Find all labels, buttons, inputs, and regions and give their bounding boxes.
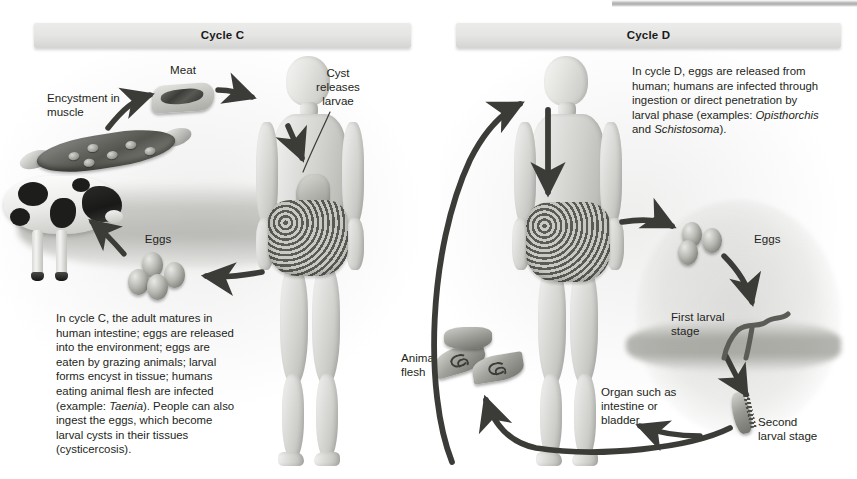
caption-d-tail: ). <box>719 123 726 135</box>
egg <box>147 274 168 300</box>
caption-d-species2: Schistosoma <box>654 123 719 135</box>
foot-left <box>536 452 562 466</box>
cow-hoof <box>31 272 44 281</box>
head <box>544 56 588 106</box>
flesh-slab <box>444 327 492 349</box>
shin-left <box>282 374 304 460</box>
egg-cluster-cycle-d <box>676 222 738 266</box>
caption-d-species: Opisthorchis <box>755 109 818 121</box>
caption-cycle-d: In cycle D, eggs are released from human… <box>632 64 824 137</box>
foot-left <box>278 452 304 466</box>
cycle-d-title-label: Cycle D <box>627 29 671 41</box>
caption-c-lead: In cycle C, the adult matures in human i… <box>56 312 234 412</box>
leg-right <box>570 264 598 386</box>
label-first-larval-stage: First larval stage <box>671 310 755 338</box>
cow-illustration <box>2 170 126 292</box>
cow-hoof <box>55 272 68 281</box>
label-second-larval-stage: Second larval stage <box>758 415 840 443</box>
intestine-organ <box>526 202 610 282</box>
egg <box>678 240 698 265</box>
label-eggs-cycle-d: Eggs <box>754 232 814 246</box>
panel-cycle-c: Cycle C <box>0 0 440 479</box>
caption-c-species: Taenia <box>109 400 143 412</box>
leg-left <box>280 264 308 386</box>
label-organ-intestine-bladder: Organ such as intestine or bladder <box>601 385 697 428</box>
cycle-c-title-banner: Cycle C <box>34 22 411 48</box>
caption-d-mid: and <box>632 123 654 135</box>
cycle-d-title-banner: Cycle D <box>456 22 841 48</box>
label-eggs-cycle-c: Eggs <box>132 232 184 246</box>
egg-cluster-cycle-c <box>128 252 200 296</box>
foot-right <box>314 452 340 466</box>
caption-cycle-c: In cycle C, the adult matures in human i… <box>56 311 241 457</box>
cow-leg <box>32 230 43 276</box>
egg <box>702 228 722 253</box>
label-cyst-releases-larvae: Cyst releases larvae <box>303 66 373 109</box>
cow-muzzle <box>105 210 123 223</box>
egg <box>128 269 149 295</box>
fluke-gut-spiral <box>487 361 507 377</box>
cow-patch <box>10 208 30 226</box>
leg-right <box>312 264 340 386</box>
label-encystment-in-muscle: Encystment in muscle <box>47 91 167 119</box>
cycle-c-title-label: Cycle C <box>201 29 245 41</box>
intestine-organ <box>268 200 348 276</box>
label-meat: Meat <box>152 63 214 77</box>
cow-patch <box>18 182 48 206</box>
shin-right <box>316 374 338 460</box>
label-animal-flesh: Animal flesh <box>401 351 459 379</box>
forearm-right <box>346 218 364 270</box>
cow-leg <box>56 230 67 276</box>
human-figure-cycle-c <box>238 56 388 468</box>
foot-right <box>572 452 598 466</box>
figure-root: Cycle C <box>0 0 857 479</box>
shin-right <box>574 374 596 460</box>
